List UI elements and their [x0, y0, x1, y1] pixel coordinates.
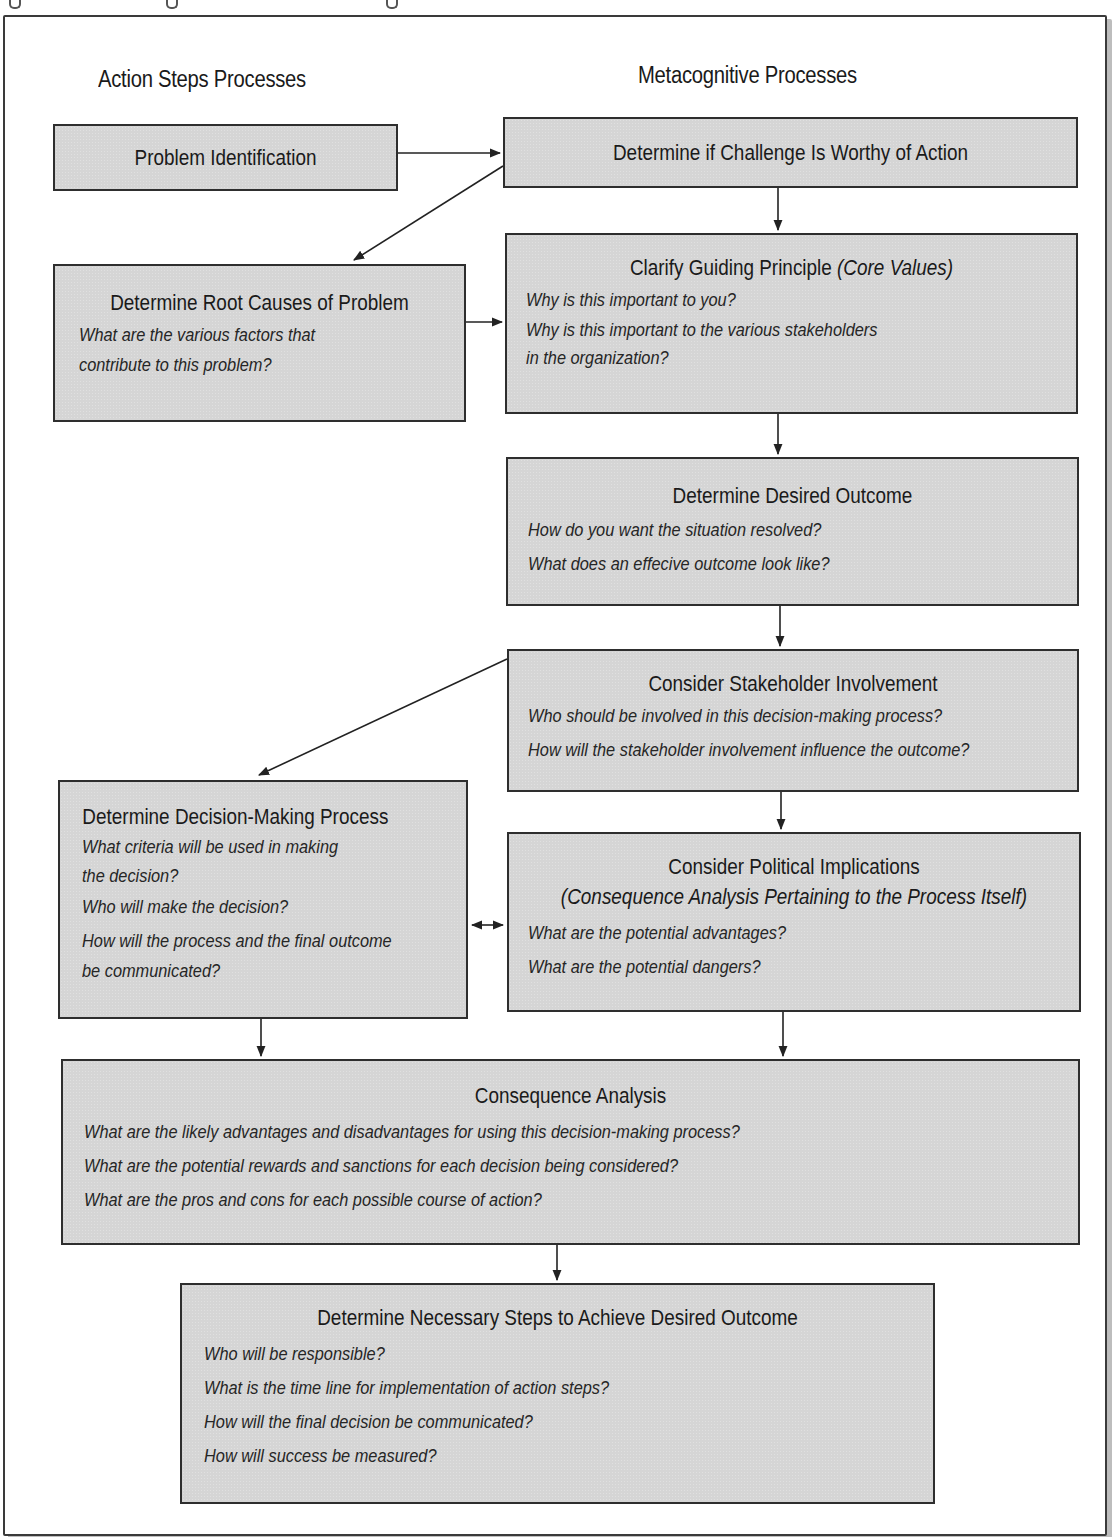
box-decision-making-process: Determine Decision-Making Process What c…	[58, 780, 468, 1019]
box-title: Determine Necessary Steps to Achieve Des…	[235, 1305, 881, 1331]
box-title: Determine Desired Outcome	[548, 483, 1037, 509]
question-line: Why is this important to you?	[526, 283, 999, 316]
title-italic: (Core Values)	[837, 255, 953, 280]
box-root-causes: Determine Root Causes of Problem What ar…	[53, 264, 466, 422]
question-line: How will the stakeholder involvement inf…	[528, 733, 1000, 767]
box-challenge-worthy: Determine if Challenge Is Worthy of Acti…	[503, 117, 1078, 188]
question-line: How will success be measured?	[204, 1439, 831, 1473]
question-line: How will the process and the final outco…	[82, 925, 412, 957]
column-heading-metacognitive: Metacognitive Processes	[638, 62, 857, 89]
box-title: Consequence Analysis	[134, 1083, 1007, 1109]
caption-descender	[166, 0, 178, 9]
subtitle-text: (Consequence Analysis Pertaining to the …	[561, 884, 1027, 909]
question-line: How will the final decision be communica…	[204, 1405, 831, 1439]
box-consequence-analysis: Consequence Analysis What are the likely…	[61, 1059, 1080, 1245]
box-problem-identification: Problem Identification	[53, 124, 398, 191]
box-title: Consider Stakeholder Involvement	[549, 671, 1037, 697]
box-title: Determine if Challenge Is Worthy of Acti…	[545, 140, 1036, 166]
box-title: Determine Decision-Making Process	[60, 804, 409, 830]
box-title: Consider Political Implications	[549, 854, 1039, 880]
question-line: What is the time line for implementation…	[204, 1371, 831, 1405]
box-title: Problem Identification	[79, 145, 372, 171]
box-stakeholder-involvement: Consider Stakeholder Involvement Who sho…	[507, 649, 1079, 792]
question-line: Who should be involved in this decision-…	[528, 699, 1000, 733]
box-guiding-principle: Clarify Guiding Principle (Core Values) …	[505, 233, 1078, 414]
question-line: Who will be responsible?	[204, 1337, 831, 1371]
question-line: What are the potential dangers?	[528, 950, 1002, 984]
question-line: What are the likely advantages and disad…	[84, 1115, 939, 1149]
question-line: What are the pros and cons for each poss…	[84, 1183, 939, 1217]
question-line: What criteria will be used in making	[82, 832, 412, 862]
question-line: What are the various factors that	[79, 320, 410, 350]
question-line: How do you want the situation resolved?	[528, 513, 1000, 547]
question-line: in the organization?	[526, 344, 999, 372]
question-line: Who will make the decision?	[82, 889, 412, 925]
caption-descender	[386, 0, 398, 9]
question-line: What are the potential advantages?	[528, 916, 1002, 950]
question-line: What does an effecive outcome look like?	[528, 547, 1000, 581]
question-line: contribute to this problem?	[79, 350, 410, 380]
question-line: the decision?	[82, 862, 412, 889]
caption-descender	[9, 0, 21, 9]
box-necessary-steps: Determine Necessary Steps to Achieve Des…	[180, 1283, 935, 1504]
question-line: Why is this important to the various sta…	[526, 316, 999, 344]
box-subtitle: (Consequence Analysis Pertaining to the …	[549, 884, 1039, 910]
box-political-implications: Consider Political Implications (Consequ…	[507, 832, 1081, 1012]
box-title: Clarify Guiding Principle (Core Values)	[547, 255, 1036, 281]
column-heading-action-steps: Action Steps Processes	[98, 66, 306, 93]
question-line: be communicated?	[82, 957, 412, 985]
box-desired-outcome: Determine Desired Outcome How do you wan…	[506, 457, 1079, 606]
question-line: What are the potential rewards and sanct…	[84, 1149, 939, 1183]
title-main: Clarify Guiding Principle	[630, 255, 832, 280]
box-title: Determine Root Causes of Problem	[84, 290, 436, 316]
